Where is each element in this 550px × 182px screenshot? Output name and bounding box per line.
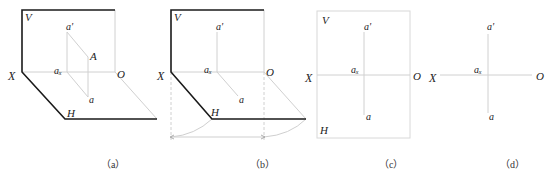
label-a-x: aₓ (54, 65, 62, 76)
panel-a: V X O H A a' aₓ a （a） (7, 10, 157, 170)
projector-aprime-A (67, 32, 88, 57)
label-a-prime: a' (364, 21, 372, 32)
rotation-arc-right (264, 119, 306, 137)
label-a-x: aₓ (474, 64, 482, 75)
label-O: O (266, 66, 274, 78)
label-a: a (489, 111, 494, 122)
caption-d: （d） (500, 159, 525, 170)
label-V: V (322, 14, 330, 26)
caption-c: （c） (379, 159, 403, 170)
panel-c: V X O H a' aₓ a （c） (304, 11, 421, 170)
label-a-prime: a' (66, 21, 74, 32)
label-H: H (210, 106, 220, 118)
label-a-x: aₓ (204, 64, 212, 75)
panel-b: V X O H a' aₓ a （b） (156, 10, 306, 170)
label-O: O (117, 68, 125, 80)
projector-ax-a (217, 72, 238, 96)
label-O: O (413, 70, 421, 82)
label-H: H (319, 124, 329, 136)
right-edge-h (264, 72, 306, 119)
label-X: X (7, 69, 16, 83)
label-X: X (156, 69, 165, 83)
label-a: a (239, 94, 244, 105)
label-a-prime: a' (216, 21, 224, 32)
label-O: O (536, 70, 544, 82)
caption-a: （a） (101, 159, 125, 170)
projector-ax-a (67, 72, 88, 97)
label-a: a (366, 111, 371, 122)
label-X: X (304, 71, 313, 85)
rotation-arc-left (171, 119, 212, 137)
caption-b: （b） (250, 159, 275, 170)
label-a-x: aₓ (351, 64, 359, 75)
label-a-prime: a' (487, 21, 495, 32)
label-X: X (428, 71, 437, 85)
label-H: H (66, 107, 76, 119)
label-V: V (25, 11, 33, 23)
panel-d: X O a' aₓ a （d） (428, 21, 544, 170)
label-A: A (89, 50, 97, 62)
label-V: V (174, 11, 182, 23)
label-a: a (89, 94, 94, 105)
projection-diagram: V X O H A a' aₓ a （a） V X O H a' aₓ a （b… (0, 0, 550, 182)
